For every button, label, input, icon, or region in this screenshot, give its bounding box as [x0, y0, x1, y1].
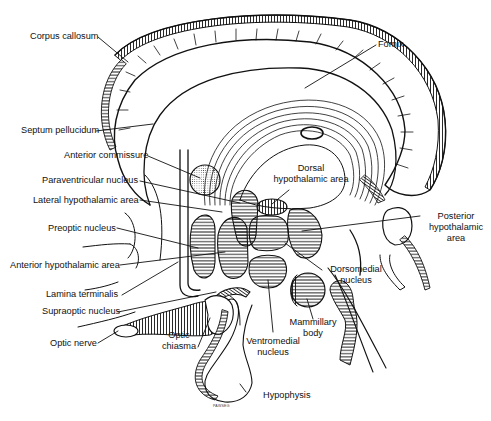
label-anterior-commissure: Anterior commissure [64, 150, 148, 161]
anterior-commissure-shape [190, 165, 220, 195]
label-corpus-callosum: Corpus callosum [30, 31, 98, 42]
label-posterior-hypothalamic-area: Posterior hypothalamic area [423, 211, 489, 244]
label-preoptic-nucleus: Preoptic nucleus [48, 223, 116, 234]
dorsal-hypothalamic-area-shape [257, 199, 287, 215]
label-paraventricular-nucleus: Paraventricular nucleus [42, 175, 138, 186]
preoptic-nucleus-shape [190, 215, 215, 278]
label-dorsal-hypothalamic-area: Dorsal hypothalamic area [268, 163, 354, 185]
dorsomedial-nucleus-shape [249, 215, 288, 250]
posterior-hypothalamic-area-shape [288, 209, 322, 258]
ventromedial-nucleus-shape [249, 255, 286, 288]
label-fornix: Fornix [378, 39, 404, 50]
interthalamic-adhesion [301, 127, 323, 139]
label-anterior-hypothalamic-area: Anterior hypothalamic area [10, 260, 120, 271]
label-lamina-terminalis: Lamina terminalis [46, 289, 118, 300]
artist-signature: PAWSEG [213, 404, 230, 408]
label-septum-pellucidum: Septum pellucidum [21, 125, 99, 136]
label-hypophysis: Hypophysis [263, 390, 311, 401]
label-optic-nerve: Optic nerve [50, 338, 97, 349]
label-ventromedial-nucleus: Ventromedial nucleus [240, 336, 306, 358]
label-optic-chiasma: Optic chiasma [158, 330, 200, 352]
label-dorsomedial-nucleus: Dorsomedial nucleus [325, 264, 387, 286]
fornix-shape [204, 100, 384, 205]
label-supraoptic-nucleus: Supraoptic nucleus [42, 306, 120, 317]
label-lateral-hypothalamic-area: Lateral hypothalamic area [33, 195, 139, 206]
